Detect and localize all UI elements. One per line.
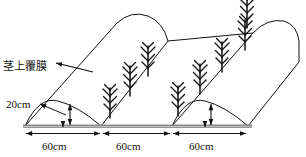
height-dimension xyxy=(40,104,70,125)
seedling xyxy=(103,85,117,119)
seedling xyxy=(123,63,137,97)
seedling-group xyxy=(103,0,254,118)
span-label-1: 60cm xyxy=(42,140,66,152)
seedling xyxy=(215,39,229,73)
figure-container: 茎上覆膜 20cm 60cm 60cm 60cm xyxy=(0,0,306,157)
seedling xyxy=(141,43,155,77)
ridge-right-outer-edge xyxy=(172,33,253,126)
span-label-3: 60cm xyxy=(189,140,213,152)
ground-baseline xyxy=(23,126,252,128)
ridge-left-back-cap xyxy=(117,14,168,41)
ridge-right-inner-edge xyxy=(248,62,299,126)
mulch-label: 茎上覆膜 xyxy=(3,57,47,73)
seedling xyxy=(171,83,185,117)
span-label-2: 60cm xyxy=(116,140,140,152)
ridge-diagram xyxy=(0,0,306,157)
height-label: 20cm xyxy=(6,98,30,110)
ridge-left-outer-edge xyxy=(25,23,117,126)
ridge-right xyxy=(172,21,299,127)
ridge-right-back-cap xyxy=(253,21,299,42)
seedling xyxy=(240,0,254,28)
